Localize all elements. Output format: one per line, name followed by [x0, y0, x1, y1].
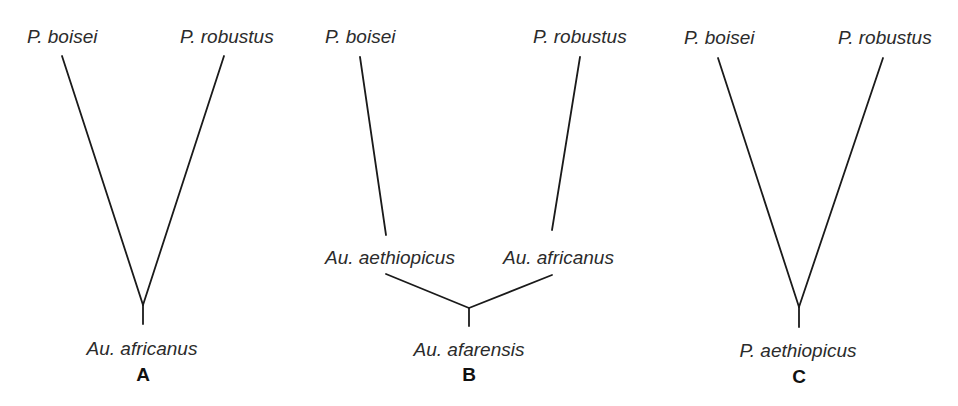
tree-c-root-label: P. aethiopicus	[740, 340, 857, 361]
cladogram-canvas: P. boisei P. robustus Au. africanus A P.…	[0, 0, 958, 406]
tree-b-top-left-label: P. boisei	[325, 26, 396, 47]
tree-b-right-lower-branch	[469, 275, 552, 308]
tree-c-top-left-label: P. boisei	[684, 27, 755, 48]
tree-c-letter: C	[792, 366, 806, 387]
tree-b: P. boisei P. robustus Au. aethiopicus Au…	[324, 26, 627, 385]
tree-b-left-upper-branch	[360, 57, 386, 235]
tree-b-right-upper-branch	[552, 57, 580, 230]
phylogeny-figure: P. boisei P. robustus Au. africanus A P.…	[0, 0, 958, 406]
tree-c-right-branch	[799, 58, 883, 307]
tree-c-top-right-label: P. robustus	[838, 27, 932, 48]
tree-a-right-branch	[143, 56, 224, 305]
tree-a-root-label: Au. africanus	[86, 338, 198, 359]
tree-a-left-branch	[62, 56, 143, 305]
tree-b-root-label: Au. afarensis	[413, 339, 525, 360]
tree-b-mid-left-label: Au. aethiopicus	[324, 247, 455, 268]
tree-b-letter: B	[462, 364, 476, 385]
tree-c: P. boisei P. robustus P. aethiopicus C	[684, 27, 932, 387]
tree-b-top-right-label: P. robustus	[533, 26, 627, 47]
tree-a-letter: A	[136, 364, 150, 385]
tree-a-top-left-label: P. boisei	[27, 26, 98, 47]
tree-b-left-lower-branch	[386, 274, 469, 308]
tree-a-top-right-label: P. robustus	[180, 26, 274, 47]
tree-c-left-branch	[718, 58, 799, 307]
tree-a: P. boisei P. robustus Au. africanus A	[27, 26, 274, 385]
tree-b-mid-right-label: Au. africanus	[502, 247, 614, 268]
